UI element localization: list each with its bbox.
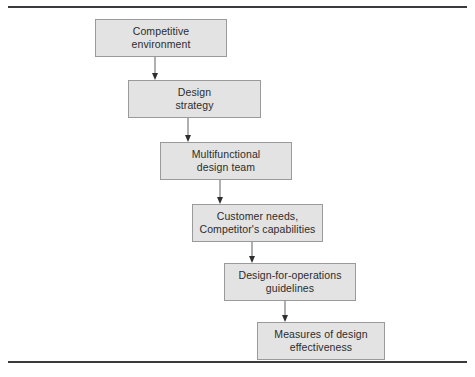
arrowhead-icon xyxy=(185,135,191,142)
arrowhead-icon xyxy=(282,315,288,322)
arrow-design-strategy-to-multifunctional-design-team xyxy=(185,118,191,142)
flow-node-label: Customer needs, Competitor's capabilitie… xyxy=(200,210,316,237)
arrow-design-for-operations-guidelines-to-measures-of-design-effectiveness xyxy=(282,301,288,322)
arrow-multifunctional-design-team-to-customer-needs-competitor-capabilities xyxy=(217,180,223,204)
flowchart-figure: Competitive environmentDesign strategyMu… xyxy=(0,0,475,377)
flow-node-competitive-environment: Competitive environment xyxy=(95,19,227,57)
arrowhead-icon xyxy=(249,256,255,263)
flow-node-customer-needs-competitor-capabilities: Customer needs, Competitor's capabilitie… xyxy=(192,204,323,242)
flow-node-multifunctional-design-team: Multifunctional design team xyxy=(160,142,292,180)
arrowhead-icon xyxy=(152,73,158,80)
connector-layer xyxy=(0,0,475,377)
arrow-customer-needs-competitor-capabilities-to-design-for-operations-guidelines xyxy=(249,242,255,263)
flow-node-label: Multifunctional design team xyxy=(192,148,261,175)
flow-node-label: Design-for-operations guidelines xyxy=(238,269,341,296)
arrow-competitive-environment-to-design-strategy xyxy=(152,57,158,80)
flow-node-label: Design strategy xyxy=(175,86,213,113)
flow-node-label: Measures of design effectiveness xyxy=(274,328,367,355)
arrowhead-icon xyxy=(217,197,223,204)
flow-node-measures-of-design-effectiveness: Measures of design effectiveness xyxy=(257,322,385,360)
flow-node-design-for-operations-guidelines: Design-for-operations guidelines xyxy=(224,263,356,301)
flow-node-design-strategy: Design strategy xyxy=(128,80,261,118)
flow-node-label: Competitive environment xyxy=(132,25,191,52)
